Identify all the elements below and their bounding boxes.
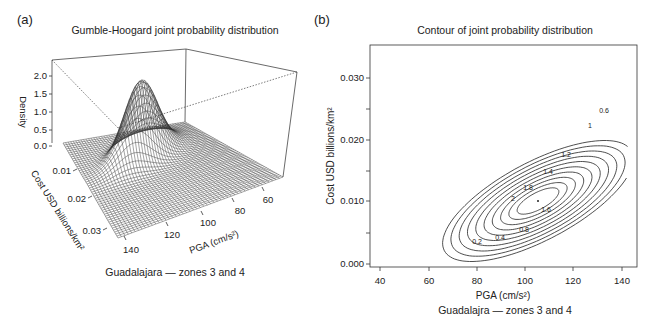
y-axis-label: Cost USD billions/km²: [325, 107, 336, 205]
contour-label: 0.6: [599, 107, 609, 114]
contour-label: 1: [588, 122, 592, 129]
x-tick: 120: [565, 275, 581, 286]
y-tick: 0.030: [340, 72, 364, 83]
x-tick: 60: [424, 275, 435, 286]
y-tick: 0.000: [340, 258, 364, 269]
z-tick: 0.0: [34, 140, 47, 151]
y-tick: 0.01: [53, 165, 72, 176]
z-tick: 1.0: [34, 106, 47, 117]
contour-label: 2: [511, 195, 515, 202]
z-axis: [49, 76, 52, 146]
x-tick: 100: [517, 275, 533, 286]
peak-marker: [537, 200, 539, 202]
x-tick: 140: [123, 244, 139, 255]
y-tick: 0.02: [68, 193, 87, 204]
contour-label: 0.4: [495, 234, 505, 241]
surface-3d-plot: [52, 49, 297, 177]
contour-label: 1.4: [543, 168, 553, 175]
y-tick: 0.010: [340, 195, 364, 206]
contour-label: 1.8: [523, 184, 533, 191]
contour-label: 1.2: [561, 151, 571, 158]
x-axis-label: PGA (cm/s²): [188, 228, 240, 256]
z-tick: 2.0: [34, 70, 47, 81]
surface-mesh: [63, 80, 283, 238]
z-tick: 1.5: [34, 88, 47, 99]
contour-label: 1.6: [541, 206, 551, 213]
contour-label: 0.8: [519, 226, 529, 233]
y-tick: 0.020: [340, 134, 364, 145]
contour-plot: 0.000 0.010 0.020 0.030 40 60 80 100 120…: [325, 45, 637, 301]
x-tick: 80: [472, 275, 483, 286]
x-tick: 40: [375, 275, 386, 286]
contour-label: 0.2: [472, 238, 482, 245]
x-axis-label: PGA (cm/s²): [476, 290, 530, 301]
figure-canvas: 2.0 1.5 1.0 0.5 0.0 Density 0.01 0.02 0.…: [0, 0, 654, 330]
y-axis-label: Cost USD billions/km²: [29, 168, 87, 252]
contour-lines: [443, 141, 628, 262]
y-tick: 0.03: [83, 225, 102, 236]
x-tick: 100: [200, 217, 216, 228]
z-tick: 0.5: [34, 124, 47, 135]
x-tick: 120: [164, 229, 180, 240]
z-axis-label: Density: [18, 96, 29, 128]
x-tick: 80: [235, 205, 246, 216]
x-tick: 140: [614, 275, 630, 286]
x-tick: 60: [263, 194, 274, 205]
